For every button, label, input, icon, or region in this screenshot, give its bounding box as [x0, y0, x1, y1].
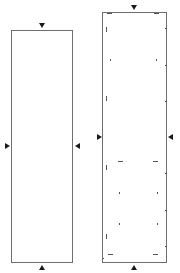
marker-tick [106, 234, 107, 239]
marker-tick [165, 28, 167, 29]
marker-tick [153, 254, 158, 255]
arrow-left-icon [168, 134, 173, 140]
marker-tick [103, 258, 104, 259]
arrow-left-icon [75, 143, 80, 149]
arrow-up-icon [39, 265, 45, 270]
left-panel [11, 30, 73, 263]
marker-tick [108, 254, 113, 255]
arrow-down-icon [131, 5, 137, 10]
marker-tick [165, 173, 167, 174]
marker-tick [165, 101, 167, 102]
marker-tick [165, 65, 167, 66]
marker-tick [153, 161, 158, 162]
marker-tick [157, 192, 158, 194]
marker-tick [165, 246, 167, 247]
arrow-right-icon [5, 143, 10, 149]
arrow-down-icon [39, 23, 45, 28]
marker-tick [154, 13, 159, 14]
marker-tick [110, 59, 111, 61]
marker-tick [119, 223, 120, 225]
marker-tick [118, 161, 123, 162]
marker-tick [107, 13, 112, 14]
marker-tick [165, 210, 167, 211]
arrow-up-icon [131, 265, 137, 270]
marker-tick [157, 223, 158, 225]
marker-tick [106, 96, 107, 101]
arrow-right-icon [97, 134, 102, 140]
marker-tick [119, 192, 120, 194]
marker-tick [106, 27, 107, 32]
right-panel [102, 12, 167, 263]
marker-tick [106, 165, 107, 170]
marker-tick [156, 59, 157, 61]
